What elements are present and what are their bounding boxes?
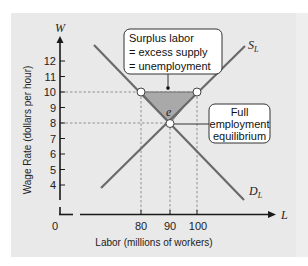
y-tick-label: 11 bbox=[45, 71, 56, 83]
equilibrium-point-icon bbox=[166, 120, 174, 128]
x-ticks bbox=[141, 210, 197, 214]
equilibrium-label: e bbox=[166, 105, 172, 119]
x-axis-arrow-icon bbox=[268, 211, 276, 218]
y-tick-label: 9 bbox=[50, 102, 56, 114]
callout-surplus-line3: = unemployment bbox=[129, 60, 211, 72]
y-tick-label: 5 bbox=[50, 164, 56, 176]
y-tick-label: 7 bbox=[50, 133, 56, 145]
x-tick-label: 90 bbox=[164, 220, 176, 232]
origin-label: 0 bbox=[52, 220, 58, 232]
supply-curve-label: SL bbox=[248, 38, 259, 54]
y-axis-title: Wage Rate (dollars per hour) bbox=[22, 66, 33, 195]
x-axis-symbol: L bbox=[280, 208, 288, 222]
x-tick-label: 80 bbox=[135, 220, 147, 232]
labor-market-chart: 12 11 10 9 8 7 6 5 4 0 80 90 100 W L Lab… bbox=[0, 0, 308, 266]
y-axis-symbol: W bbox=[55, 21, 66, 35]
y-tick-label: 4 bbox=[50, 179, 56, 191]
x-tick-label: 100 bbox=[189, 220, 207, 232]
callout-full-employment: Full employment equilibrium bbox=[170, 104, 270, 143]
callout-surplus-line2: = excess supply bbox=[129, 46, 208, 58]
surplus-point-left-icon bbox=[137, 88, 145, 96]
y-tick-label: 6 bbox=[50, 148, 56, 160]
callout-pointer-dot-icon bbox=[166, 86, 170, 90]
y-tick-label: 12 bbox=[44, 55, 56, 67]
callout-equilibrium-line2: employment bbox=[210, 118, 270, 130]
callout-surplus-labor: Surplus labor = excess supply = unemploy… bbox=[124, 29, 222, 90]
surplus-point-right-icon bbox=[193, 88, 201, 96]
x-axis-title: Labor (millions of workers) bbox=[95, 237, 212, 248]
y-axis-arrow-icon bbox=[57, 36, 64, 43]
callout-equilibrium-line1: Full bbox=[231, 106, 249, 118]
y-tick-label: 10 bbox=[44, 86, 56, 98]
callout-equilibrium-line3: equilibrium bbox=[213, 130, 266, 142]
y-tick-label: 8 bbox=[50, 117, 56, 129]
demand-curve-label: DL bbox=[248, 184, 263, 200]
callout-surplus-line1: Surplus labor bbox=[129, 32, 194, 44]
